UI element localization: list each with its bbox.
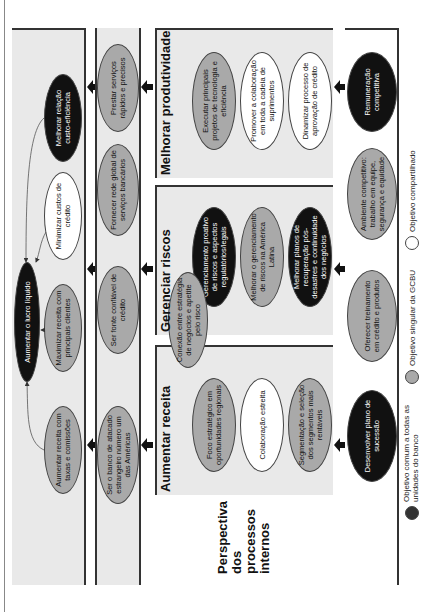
section-title-gerenciar-riscos: Gerenciar riscos	[158, 229, 173, 332]
legend-white-dot	[405, 236, 419, 250]
section-title-aumentar-receita: Aumentar receita	[158, 386, 173, 492]
objective-ambiente-competitivo: Ambiente competitivo: trabalho em equipe…	[347, 148, 397, 240]
objective-banco-atacado: Ser o banco de atacado estrangeiro númer…	[97, 406, 139, 504]
legend-common: Objetivo comum a todas as unidades do ba…	[402, 402, 420, 502]
objective-colaboracao-estreita: Colaboração estreita	[240, 378, 284, 472]
legend-gray-dot	[405, 370, 419, 384]
arrow-icon	[141, 262, 153, 276]
objective-fonte-credito: Ser fonte confiável de crédito	[97, 266, 139, 354]
objective-foco-estrategico: Foco estratégico em oportunidades region…	[192, 378, 236, 472]
strategy-map: Perspectiva financeira Perspectiva do cl…	[0, 0, 443, 612]
legend-black-dot	[405, 506, 419, 520]
arrow-icon	[141, 80, 153, 94]
section-title-melhorar-produtividade: Melhorar produtividade	[158, 31, 173, 175]
arrow-icon	[141, 438, 153, 452]
legend-shared: Objetivo compartilhado	[408, 92, 417, 232]
objective-riscos-america-latina: Melhorar o gerenciamento de riscos na Am…	[240, 207, 284, 307]
objective-aprovacao-credito: Dinamizar processo de aprovação de crédi…	[288, 52, 332, 150]
objective-rede-global: Fornecer rede global de serviços bancári…	[97, 144, 139, 236]
objective-servicos-rapidos: Prestar serviços rápidos e precisos	[97, 44, 139, 132]
objective-projetos-tecnologia: Executar principais projetos de tecnolog…	[192, 52, 236, 150]
objective-treinamento: Oferecer treinamento em crédito e produt…	[347, 270, 397, 362]
objective-planos-recuperacao: Melhorar planos de recuperação pós-desas…	[288, 207, 332, 307]
frame-line	[4, 0, 5, 612]
objective-plano-sucessao: Desenvolver plano de sucessão	[347, 390, 397, 482]
objective-segmentacao: Segmentação e seleção dos segmentos mais…	[288, 378, 332, 472]
objective-remuneracao: Remuneração competitiva	[347, 52, 397, 132]
objective-cadeia-suprimentos: Promover a colaboração em toda a cadeia …	[240, 52, 284, 150]
objective-conexao-estrategia: Conexão entre estratégia de negócios e a…	[168, 272, 208, 368]
